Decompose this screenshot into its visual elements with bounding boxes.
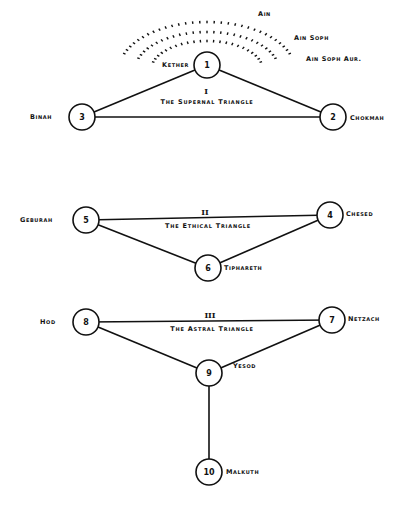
veil-dot: [231, 43, 233, 46]
veil-dot: [180, 43, 182, 46]
veil-dot: [185, 22, 187, 25]
veil-dot: [206, 21, 207, 24]
veil-dot: [206, 40, 207, 43]
veil-dot: [239, 35, 241, 38]
sephirah-name-geburah: Geburah: [20, 216, 53, 224]
sephirah-name-chesed: Chesed: [346, 210, 373, 218]
veil-label-ain-soph-aur: Ain Soph Aur.: [306, 55, 362, 63]
veil-dot: [200, 40, 202, 43]
triangle-numeral-astral: III: [204, 310, 215, 320]
veil-dot: [227, 32, 229, 35]
veil-dot: [220, 21, 222, 24]
veil-dot: [213, 40, 215, 43]
sephirah-name-netzach: Netzach: [348, 315, 380, 323]
veil-dot: [129, 45, 132, 47]
veil-dot: [265, 33, 268, 36]
veil-dot: [147, 33, 150, 36]
sephirah-number: 6: [205, 264, 211, 273]
veil-dot: [199, 21, 201, 24]
sephirah-number: 8: [83, 318, 89, 327]
triangle-title-supernal: The Supernal Triangle: [160, 98, 253, 106]
veil-dot: [178, 23, 180, 26]
triangle-numeral-supernal: I: [204, 86, 208, 96]
veil-dot: [126, 49, 129, 51]
veil-dot: [233, 33, 235, 36]
veil-dot: [158, 28, 161, 31]
veil-dot: [192, 21, 194, 24]
sephirah-number: 9: [206, 369, 212, 378]
veil-dot: [179, 33, 181, 36]
veil-dot: [237, 44, 240, 47]
veil-dot: [279, 42, 282, 45]
veil-dot: [254, 54, 257, 56]
veil-dot: [268, 50, 271, 52]
sephirah-number: 10: [203, 468, 215, 477]
triangle-numeral-ethical: II: [201, 207, 209, 217]
sephirah-name-tiphareth: Tiphareth: [224, 264, 262, 272]
veil-dot: [169, 46, 172, 49]
sephirah-7: 7 Netzach: [319, 307, 380, 333]
sephirah-number: 5: [83, 216, 89, 225]
sephirah-2: 2 Chokmah: [320, 104, 384, 130]
path-1-2: [207, 65, 333, 117]
veil-dot: [213, 21, 215, 24]
veil-dot: [164, 26, 166, 29]
sephirah-4: 4 Chesed: [317, 202, 373, 228]
veil-dot: [265, 47, 268, 50]
veil-dot: [227, 22, 229, 25]
sephirah-number: 7: [329, 316, 335, 325]
veil-dot: [143, 50, 146, 52]
sephirah-1: 1 Kether: [162, 52, 220, 78]
veil-dot: [274, 57, 277, 59]
veil-dot: [234, 23, 236, 26]
veil-dot: [185, 32, 187, 35]
veil-dot: [282, 45, 285, 47]
veil-dot: [137, 57, 140, 59]
veil-dot: [157, 54, 160, 56]
veil-dot: [247, 49, 250, 52]
veil-dot: [247, 26, 249, 29]
veil-dot: [261, 44, 264, 47]
sephirah-number: 3: [79, 113, 85, 122]
sephirah-name-binah: Binah: [30, 113, 52, 121]
veil-dot: [199, 31, 201, 34]
veil-dot: [259, 61, 262, 63]
veil-dot: [242, 46, 245, 49]
veil-dot: [172, 35, 174, 38]
sephirah-name-hod: Hod: [40, 318, 56, 326]
veil-dot: [251, 39, 254, 42]
veil-dot: [152, 30, 155, 33]
veil-dot: [160, 52, 163, 55]
path-1-3: [82, 65, 207, 117]
veil-dot: [206, 31, 207, 34]
veil-dot: [161, 39, 164, 42]
triangle-title-ethical: The Ethical Triangle: [165, 222, 251, 230]
veil-dot: [152, 61, 155, 63]
sephirah-number: 1: [204, 61, 210, 70]
veil-dot: [171, 24, 173, 27]
veil-dot: [213, 31, 215, 34]
sephirah-number: 2: [330, 113, 336, 122]
sephirah-name-kether: Kether: [162, 61, 189, 69]
veil-dot: [146, 47, 149, 50]
veil-dot: [219, 40, 221, 43]
veil-dot: [192, 31, 194, 34]
sephirah-name-yesod: Yesod: [232, 362, 256, 370]
veil-dot: [154, 58, 157, 60]
veil-dot: [270, 36, 273, 39]
veil-dot: [220, 31, 222, 34]
triangle-title-astral: The Astral Triangle: [170, 325, 254, 333]
veil-dot: [151, 44, 154, 47]
veil-label-ain-soph: Ain Soph: [294, 34, 329, 42]
veil-dot: [245, 37, 248, 40]
veil-dot: [133, 42, 136, 45]
path-8-7: [86, 320, 332, 322]
veil-dot: [288, 52, 291, 54]
veil-dot: [193, 40, 195, 43]
veil-dot: [257, 58, 260, 60]
veil-dot: [259, 30, 262, 33]
veil-dot: [187, 41, 189, 44]
veil-dot: [155, 41, 158, 44]
veil-dot: [166, 37, 169, 40]
veil-dot: [142, 36, 145, 39]
